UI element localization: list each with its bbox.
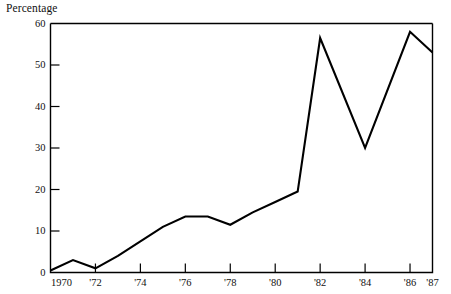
y-tick-label: 20: [18, 184, 46, 195]
data-series-group: [51, 32, 433, 271]
line-chart: Percentage 0102030405060 1970'72'74'76'7…: [0, 0, 451, 294]
y-tick-label: 60: [18, 18, 46, 29]
plot-area: [0, 0, 451, 294]
y-tick-marks: [51, 65, 60, 231]
x-tick-label: '86: [404, 277, 416, 288]
x-tick-label: 1970: [51, 277, 72, 288]
axis-frame: [51, 24, 433, 273]
x-tick-label: '82: [314, 277, 326, 288]
x-tick-label: '80: [269, 277, 281, 288]
y-tick-label: 0: [18, 267, 46, 278]
y-tick-label: 30: [18, 142, 46, 153]
x-tick-marks: [95, 264, 410, 273]
y-tick-label: 50: [18, 59, 46, 70]
x-tick-label: '76: [179, 277, 191, 288]
x-tick-label: '74: [134, 277, 146, 288]
y-tick-label: 10: [18, 225, 46, 236]
x-tick-label: '84: [359, 277, 371, 288]
x-tick-label: '72: [89, 277, 101, 288]
x-tick-label: '87: [426, 277, 438, 288]
x-tick-label: '78: [224, 277, 236, 288]
y-tick-label: 40: [18, 101, 46, 112]
